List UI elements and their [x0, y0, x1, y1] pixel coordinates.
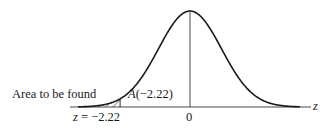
origin-label: 0	[186, 110, 192, 124]
area-function-letter: A	[127, 87, 136, 101]
axis-label-z: z	[312, 99, 318, 113]
area-function-arg: (−2.22)	[136, 87, 173, 101]
normal-curve-diagram: Area to be found A(−2.22) z = −2.22 0 z	[0, 0, 329, 129]
area-to-be-found-label: Area to be found	[12, 87, 97, 101]
z-value-label: z = −2.22	[72, 110, 120, 124]
bell-curve	[78, 11, 300, 107]
area-function-label: A(−2.22)	[127, 87, 173, 101]
z-eq: = −2.22	[78, 110, 120, 124]
